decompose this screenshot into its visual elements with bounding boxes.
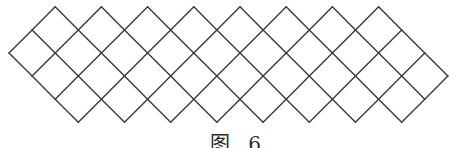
lattice-edge: [402, 76, 425, 99]
lattice-edge: [332, 30, 355, 53]
lattice-edge: [309, 99, 332, 122]
lattice-edge: [171, 7, 194, 30]
lattice-edge: [194, 53, 217, 76]
lattice-edge: [148, 99, 171, 122]
lattice-edge: [309, 7, 332, 30]
lattice-edge: [379, 99, 402, 122]
lattice-edge: [78, 7, 101, 30]
lattice-edge: [9, 30, 32, 53]
lattice-edge: [217, 30, 240, 53]
lattice-edge: [171, 53, 194, 76]
lattice-edge: [194, 7, 217, 30]
lattice-edge: [55, 53, 78, 76]
lattice-edge: [286, 99, 309, 122]
lattice-edge: [125, 30, 148, 53]
lattice-edge: [78, 99, 101, 122]
lattice-edge: [286, 7, 309, 30]
lattice-edge: [78, 53, 101, 76]
lattice-edge: [101, 7, 124, 30]
lattice-edge: [194, 76, 217, 99]
lattice-edge: [425, 53, 448, 76]
lattice-edge: [356, 30, 379, 53]
lattice-edge: [78, 76, 101, 99]
lattice-edge: [9, 53, 32, 76]
lattice-edge: [240, 76, 263, 99]
lattice-edge: [217, 7, 240, 30]
lattice-edge: [101, 76, 124, 99]
lattice-edge: [286, 76, 309, 99]
lattice-edge: [55, 30, 78, 53]
lattice-edge: [263, 30, 286, 53]
lattice-edge: [148, 30, 171, 53]
lattice-edge: [286, 53, 309, 76]
lattice-edge: [148, 76, 171, 99]
lattice-edge: [309, 76, 332, 99]
lattice-edge: [425, 76, 448, 99]
lattice-edge: [101, 99, 124, 122]
lattice-edge: [286, 30, 309, 53]
diamond-lattice-figure: [0, 0, 463, 148]
lattice-edge: [171, 99, 194, 122]
lattice-edge: [356, 53, 379, 76]
lattice-edge: [379, 7, 402, 30]
lattice-edge: [55, 99, 78, 122]
lattice-edge: [332, 76, 355, 99]
lattice-edge: [309, 53, 332, 76]
lattice-edge: [240, 99, 263, 122]
lattice-edge: [217, 99, 240, 122]
lattice-edge: [148, 53, 171, 76]
lattice-edge: [171, 76, 194, 99]
lattice-edge: [240, 7, 263, 30]
lattice-edge: [379, 30, 402, 53]
lattice-edge: [309, 30, 332, 53]
lattice-edge: [32, 76, 55, 99]
lattice-edge: [101, 30, 124, 53]
lattice-edge: [55, 7, 78, 30]
lattice-edge: [171, 30, 194, 53]
lattice-edge: [379, 53, 402, 76]
lattice-edge: [379, 76, 402, 99]
lattice-lines: [9, 7, 448, 123]
lattice-edge: [125, 76, 148, 99]
lattice-edge: [148, 7, 171, 30]
lattice-edge: [217, 53, 240, 76]
lattice-edge: [32, 30, 55, 53]
lattice-edge: [125, 53, 148, 76]
lattice-edge: [356, 7, 379, 30]
lattice-edge: [78, 30, 101, 53]
lattice-edge: [263, 7, 286, 30]
lattice-edge: [125, 99, 148, 122]
lattice-edge: [356, 99, 379, 122]
lattice-edge: [263, 76, 286, 99]
lattice-edge: [194, 99, 217, 122]
lattice-edge: [240, 53, 263, 76]
lattice-edge: [194, 30, 217, 53]
lattice-edge: [101, 53, 124, 76]
lattice-edge: [356, 76, 379, 99]
lattice-edge: [55, 76, 78, 99]
lattice-edge: [332, 7, 355, 30]
lattice-edge: [332, 53, 355, 76]
lattice-edge: [240, 30, 263, 53]
lattice-edge: [217, 76, 240, 99]
lattice-edge: [32, 7, 55, 30]
lattice-edge: [402, 53, 425, 76]
lattice-edge: [332, 99, 355, 122]
lattice-edge: [402, 30, 425, 53]
lattice-edge: [402, 99, 425, 122]
lattice-edge: [263, 53, 286, 76]
lattice-edge: [32, 53, 55, 76]
figure-caption: 图 6: [210, 134, 267, 148]
lattice-edge: [125, 7, 148, 30]
lattice-edge: [263, 99, 286, 122]
